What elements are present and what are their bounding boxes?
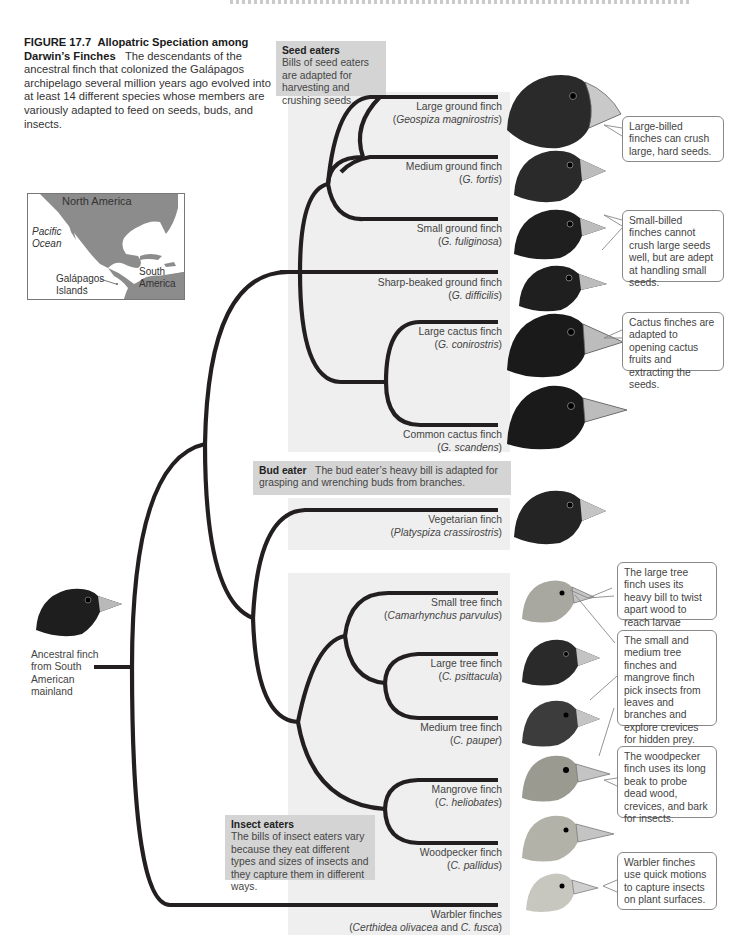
callout-large-tree-finch: The large tree finch uses its heavy bill…: [617, 562, 717, 620]
callout-large-billed-finches: Large-billed finches can crush large, ha…: [622, 116, 724, 162]
callout-woodpecker-finch: The woodpecker finch uses its long beak …: [617, 746, 717, 818]
callout-cactus-finches: Cactus finches are adapted to opening ca…: [622, 312, 724, 371]
callout-warbler-finches: Warbler finches use quick motions to cap…: [617, 852, 717, 910]
callout-small-medium-tree-finches: The small and medium tree finches and ma…: [617, 630, 717, 726]
callout-small-billed-finches: Small-billed finches cannot crush large …: [622, 210, 724, 282]
